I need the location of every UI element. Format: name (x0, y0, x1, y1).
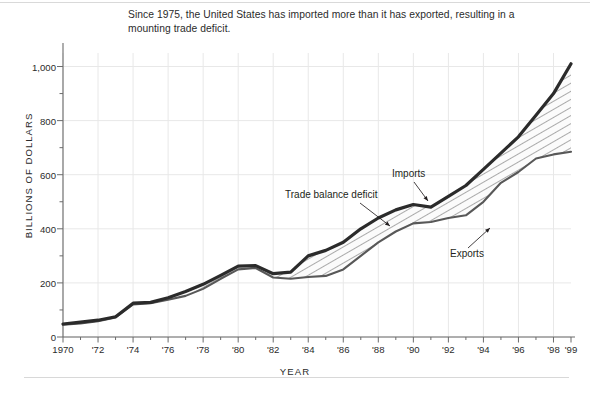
x-tick-label: '98 (547, 344, 560, 355)
x-tick-label: '84 (302, 344, 315, 355)
x-tick-label: '80 (232, 344, 245, 355)
x-axis-title: YEAR (0, 366, 590, 377)
x-tick-label: '78 (197, 344, 210, 355)
annotation-trade-balance-deficit: Trade balance deficit (285, 189, 377, 200)
x-tick-label: '74 (127, 344, 140, 355)
y-axis-title: BILLIONS OF DOLLARS (23, 86, 34, 266)
x-tick-label: '82 (267, 344, 280, 355)
y-tick-label: 1,000 (10, 61, 56, 72)
trade-balance-chart: 02004006008001,000 1970'72'74'76'78'80'8… (0, 0, 590, 396)
x-tick-label: '88 (372, 344, 385, 355)
x-tick-label: '72 (92, 344, 105, 355)
x-tick-label: '94 (477, 344, 490, 355)
y-tick-label: 200 (10, 277, 56, 288)
x-tick-label: '96 (512, 344, 525, 355)
x-tick-label: '92 (442, 344, 455, 355)
annotation-exports: Exports (450, 248, 484, 259)
x-tick-label: '90 (407, 344, 420, 355)
x-tick-label: '86 (337, 344, 350, 355)
x-tick-label: '76 (162, 344, 175, 355)
y-tick-label: 0 (10, 332, 56, 343)
x-tick-label: 1970 (52, 344, 73, 355)
annotation-imports: Imports (392, 168, 425, 179)
x-tick-label: '99 (565, 344, 578, 355)
